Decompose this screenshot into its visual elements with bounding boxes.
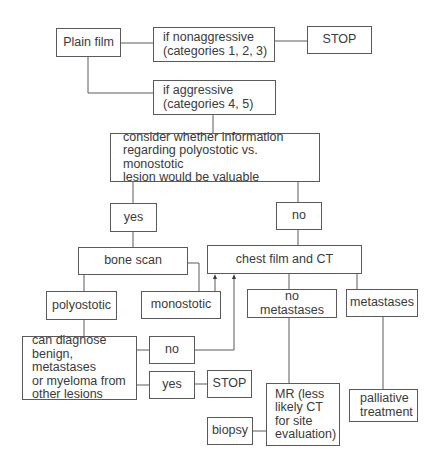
node-no-top: no	[276, 202, 322, 230]
node-can-diagnose: can diagnose benign, metastases or myelo…	[22, 336, 137, 400]
arrowhead-monostotic	[213, 274, 217, 279]
node-monostotic: monostotic	[141, 291, 221, 319]
node-no-metastases: no metastases	[247, 289, 337, 318]
node-stop-bottom: STOP	[207, 370, 252, 398]
node-palliative-treatment: palliative treatment	[349, 389, 418, 422]
node-yes-bottom: yes	[149, 371, 195, 399]
node-yes-top: yes	[110, 203, 157, 232]
arrowhead-no-return	[232, 274, 236, 279]
node-metastases: metastases	[346, 289, 418, 317]
node-stop-top: STOP	[307, 26, 372, 54]
node-polyostotic: polyostotic	[46, 291, 117, 320]
node-bone-scan: bone scan	[78, 247, 188, 275]
node-biopsy: biopsy	[207, 417, 253, 445]
node-nonaggressive: if nonaggressive (categories 1, 2, 3)	[153, 27, 275, 62]
node-plain-film: Plain film	[56, 28, 121, 57]
node-chest-film-ct: chest film and CT	[207, 245, 362, 274]
flowchart: Plain film if nonaggressive (categories …	[0, 0, 440, 473]
node-consider: consider whether information regarding p…	[110, 133, 320, 182]
node-aggressive: if aggressive (categories 4, 5)	[153, 80, 276, 115]
node-mr: MR (less likely CT for site evaluation)	[266, 383, 340, 446]
edge-bonescan-monostotic	[188, 263, 199, 291]
edge-plainfilm-aggressive	[88, 57, 153, 93]
node-no-bottom: no	[149, 336, 195, 364]
